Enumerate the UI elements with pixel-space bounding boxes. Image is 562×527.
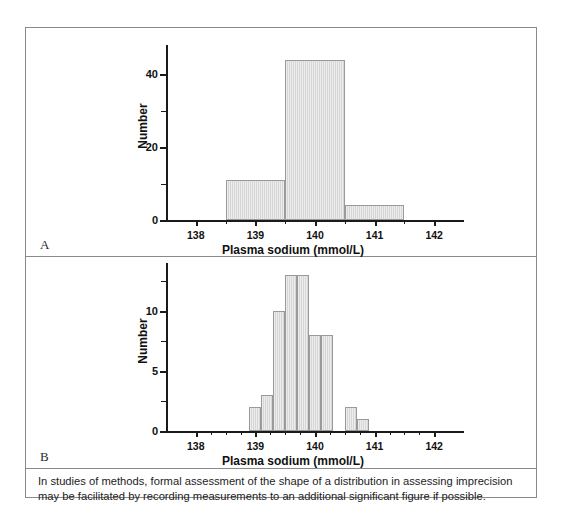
- caption-text: In studies of methods, formal assessment…: [38, 474, 524, 503]
- y-minor-tick: [161, 401, 166, 402]
- y-tick: [160, 220, 166, 222]
- bar: [261, 395, 273, 431]
- y-tick: [160, 431, 166, 433]
- x-minor-tick: [360, 431, 361, 435]
- x-minor-tick: [226, 220, 227, 224]
- x-minor-tick: [241, 431, 242, 435]
- plot-area-a: Number Plasma sodium (mmol/L) 0204013813…: [138, 45, 508, 250]
- bar: [285, 60, 345, 220]
- x-tick: [375, 220, 377, 226]
- x-tick-label: 140: [306, 229, 324, 241]
- bar: [357, 419, 369, 431]
- x-minor-tick: [345, 220, 346, 224]
- figure-container: Number Plasma sodium (mmol/L) 0204013813…: [25, 27, 537, 498]
- x-tick-label: 142: [425, 229, 443, 241]
- x-minor-tick: [390, 431, 391, 435]
- x-minor-tick: [270, 431, 271, 435]
- x-tick: [255, 431, 257, 437]
- figure-caption: In studies of methods, formal assessment…: [26, 469, 536, 498]
- x-minor-tick: [285, 431, 286, 435]
- x-tick-label: 140: [306, 440, 324, 452]
- y-tick: [160, 371, 166, 373]
- chart-panel-b: Number Plasma sodium (mmol/L) 0510138139…: [26, 257, 536, 469]
- y-tick-label: 10: [136, 305, 158, 317]
- x-tick: [315, 431, 317, 437]
- x-tick: [255, 220, 257, 226]
- bar: [345, 407, 357, 431]
- y-tick-label: 20: [136, 141, 158, 153]
- x-tick: [434, 431, 436, 437]
- x-axis-title-a: Plasma sodium (mmol/L): [222, 243, 364, 257]
- x-tick: [315, 220, 317, 226]
- x-tick-label: 139: [247, 440, 265, 452]
- x-minor-tick: [330, 431, 331, 435]
- y-tick: [160, 147, 166, 149]
- plot-area-b: Number Plasma sodium (mmol/L) 0510138139…: [138, 263, 508, 463]
- y-tick-label: 5: [136, 365, 158, 377]
- x-minor-tick: [419, 431, 420, 435]
- bar: [321, 335, 333, 431]
- panel-label-a: A: [40, 237, 50, 253]
- y-tick-label: 40: [136, 68, 158, 80]
- x-tick-label: 142: [425, 440, 443, 452]
- y-minor-tick: [161, 184, 166, 185]
- bar: [309, 335, 321, 431]
- x-tick-label: 138: [187, 440, 205, 452]
- y-minor-tick: [161, 281, 166, 282]
- bar: [273, 311, 285, 431]
- x-minor-tick: [226, 431, 227, 435]
- x-tick-label: 141: [366, 229, 384, 241]
- bar: [249, 407, 261, 431]
- x-tick-label: 141: [366, 440, 384, 452]
- y-tick: [160, 311, 166, 313]
- bar: [345, 205, 405, 220]
- x-minor-tick: [404, 431, 405, 435]
- y-tick-label: 0: [136, 425, 158, 437]
- y-minor-tick: [161, 341, 166, 342]
- x-tick-label: 139: [247, 229, 265, 241]
- chart-panel-a: Number Plasma sodium (mmol/L) 0204013813…: [26, 28, 536, 257]
- x-minor-tick: [300, 431, 301, 435]
- bars-group-a: [138, 45, 508, 220]
- x-tick: [434, 220, 436, 226]
- x-minor-tick: [285, 220, 286, 224]
- x-tick: [196, 431, 198, 437]
- x-axis-title-b: Plasma sodium (mmol/L): [222, 454, 364, 468]
- panel-label-b: B: [40, 449, 49, 465]
- x-tick-label: 138: [187, 229, 205, 241]
- x-minor-tick: [404, 220, 405, 224]
- bar: [226, 180, 286, 220]
- y-minor-tick: [161, 111, 166, 112]
- x-minor-tick: [211, 431, 212, 435]
- x-minor-tick: [345, 431, 346, 435]
- x-tick: [375, 431, 377, 437]
- y-tick: [160, 74, 166, 76]
- bar: [285, 275, 297, 431]
- bar: [297, 275, 309, 431]
- x-tick: [196, 220, 198, 226]
- bars-group-b: [138, 263, 508, 431]
- y-tick-label: 0: [136, 214, 158, 226]
